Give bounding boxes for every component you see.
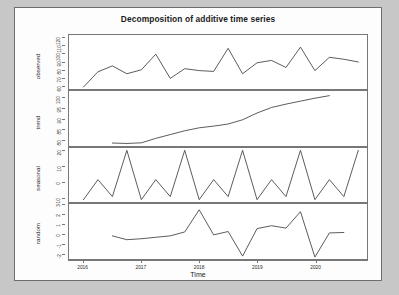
y-tick-mark [62,214,65,215]
panel-seasonal [68,147,368,203]
y-tick-mark [62,204,65,205]
y-tick-label: 100 [58,96,63,104]
random-series-svg [69,204,367,259]
y-tick-label: 90 [58,61,63,66]
y-tick-mark [62,108,65,109]
trend-series [112,96,329,144]
trend-series-svg [69,91,367,146]
x-tick-label: 2020 [310,265,321,270]
panel-random [68,203,368,260]
x-tick-label: 2017 [135,265,146,270]
y-tick-label: 100 [58,53,63,61]
y-tick-label: 80 [58,70,63,75]
y-tick-mark [62,62,65,63]
panel-label-random: random [34,206,41,262]
panel-label-trend: trend [34,95,41,151]
y-tick-mark [62,166,65,167]
random-series [112,210,343,257]
x-tick-label: 2019 [252,265,263,270]
x-tick-mark [316,260,317,263]
y-tick-mark [62,140,65,141]
y-tick-mark [62,182,65,183]
y-tick-mark [62,53,65,54]
yticks-trend: 80859095100 [51,90,65,147]
y-tick-label: 1 [58,224,63,227]
x-tick-label: 2018 [194,265,205,270]
y-tick-mark [62,224,65,225]
yticks-seasonal: -1001020 [51,147,65,203]
y-tick-label: 95 [58,107,63,112]
y-tick-label: 20 [58,150,63,155]
y-tick-label: 90 [58,118,63,123]
x-axis-label: Time [15,271,381,278]
y-tick-mark [62,150,65,151]
y-tick-label: 0 [58,182,63,185]
y-tick-mark [62,70,65,71]
y-tick-mark [62,254,65,255]
y-tick-label: 120 [58,37,63,45]
x-tick-mark [257,260,258,263]
page-title: Decomposition of additive time series [15,14,381,24]
y-tick-mark [62,198,65,199]
observed-series-svg [69,35,367,89]
y-tick-mark [62,119,65,120]
y-tick-mark [62,78,65,79]
y-tick-mark [62,86,65,87]
plot-frame: Decomposition of additive time series ob… [14,7,382,281]
screenshot-root: Decomposition of additive time series ob… [0,0,399,295]
seasonal-series [83,150,358,199]
y-tick-mark [62,37,65,38]
y-tick-label: 70 [58,78,63,83]
y-tick-label: -2 [58,254,63,258]
x-tick-label: 2016 [77,265,88,270]
y-tick-label: 85 [58,129,63,134]
panel-trend [68,90,368,147]
y-tick-mark [62,129,65,130]
y-tick-label: 110 [58,45,63,52]
y-tick-label: 10 [58,166,63,171]
y-tick-mark [62,244,65,245]
yticks-observed: 60708090100110120 [51,34,65,90]
y-tick-label: 2 [58,214,63,217]
x-tick-mark [141,260,142,263]
panel-observed [68,34,368,90]
y-tick-label: -1 [58,244,63,248]
y-tick-label: 0 [58,234,63,237]
panel-label-observed: observed [34,39,41,95]
y-tick-label: 80 [58,140,63,145]
y-tick-mark [62,234,65,235]
x-tick-mark [83,260,84,263]
x-tick-mark [199,260,200,263]
decomposition-plot: Decomposition of additive time series ob… [15,8,381,280]
yticks-random: -2-10123 [51,203,65,260]
seasonal-series-svg [69,148,367,202]
x-axis: 20162017201820192020 [68,260,368,261]
observed-series [83,47,358,87]
panel-label-seasonal: seasonal [34,151,41,207]
y-tick-label: 3 [58,204,63,207]
y-tick-mark [62,97,65,98]
